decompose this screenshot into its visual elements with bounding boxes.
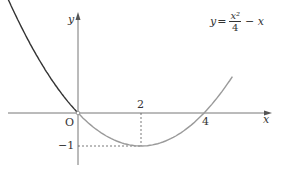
x-axis-label: x (263, 114, 269, 125)
curves (2, 0, 232, 146)
y-axis-label: y (68, 14, 74, 25)
origin-label: O (65, 117, 74, 128)
chart: y x O 2 4 −1 y = x² 4 − x (0, 0, 281, 170)
y-tick-minus-1: −1 (58, 140, 74, 151)
axes (8, 12, 272, 165)
equation-label: y = x² 4 − x (210, 10, 264, 33)
fraction: x² 4 (229, 10, 241, 33)
x-tick-4: 4 (202, 116, 209, 127)
x-tick-2: 2 (137, 99, 144, 110)
